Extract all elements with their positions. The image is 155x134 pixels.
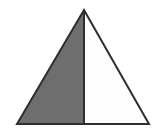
figure-canvas xyxy=(0,0,155,134)
triangle-figure xyxy=(0,0,155,134)
